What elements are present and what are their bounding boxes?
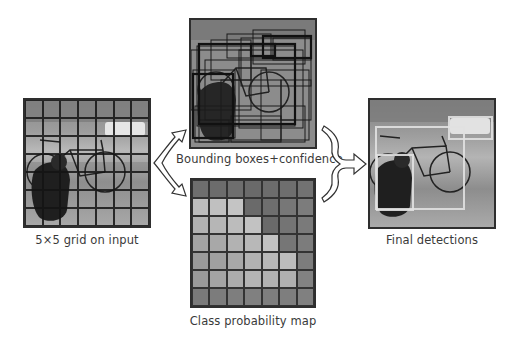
class-probability-cell [262, 180, 279, 198]
bounding-boxes-photo [191, 20, 315, 147]
class-probability-cell [297, 234, 314, 252]
class-probability-cell [209, 234, 226, 252]
class-probability-cell [279, 216, 296, 234]
class-probability-cell [227, 288, 244, 306]
class-probability-cell [279, 288, 296, 306]
merge-arrow-icon [320, 124, 368, 204]
class-probability-cell [297, 288, 314, 306]
class-probability-cell [192, 234, 209, 252]
class-probability-cell [297, 198, 314, 216]
class-probability-caption: Class probability map [183, 314, 323, 328]
class-probability-cell [279, 234, 296, 252]
class-probability-cell [279, 252, 296, 270]
class-probability-cell [279, 180, 296, 198]
class-probability-cell [262, 216, 279, 234]
class-probability-cell [279, 270, 296, 288]
bounding-boxes-panel [189, 18, 317, 149]
class-probability-cell [209, 180, 226, 198]
final-detections-caption: Final detections [368, 233, 496, 247]
final-detections-panel [368, 98, 496, 229]
class-probability-cell [209, 270, 226, 288]
class-probability-cell [209, 252, 226, 270]
class-probability-cell [244, 216, 261, 234]
class-probability-cell [227, 180, 244, 198]
class-probability-cell [279, 198, 296, 216]
class-probability-cell [262, 288, 279, 306]
class-probability-cell [244, 252, 261, 270]
class-probability-cell [227, 216, 244, 234]
input-caption: 5×5 grid on input [23, 233, 151, 247]
class-probability-cell [192, 252, 209, 270]
class-probability-cell [192, 180, 209, 198]
class-probability-cell [192, 216, 209, 234]
class-probability-grid [192, 180, 314, 306]
input-image-panel [23, 98, 151, 228]
detection-box-car [448, 116, 493, 140]
class-probability-cell [192, 270, 209, 288]
class-probability-map-panel [190, 178, 316, 308]
class-probability-cell [262, 234, 279, 252]
class-probability-cell [244, 198, 261, 216]
class-probability-cell [244, 180, 261, 198]
class-probability-cell [227, 270, 244, 288]
class-probability-cell [262, 270, 279, 288]
class-probability-cell [192, 198, 209, 216]
bounding-boxes-caption: Bounding boxes+confidence [176, 152, 331, 166]
class-probability-cell [262, 252, 279, 270]
class-probability-cell [227, 234, 244, 252]
class-probability-cell [209, 216, 226, 234]
class-probability-cell [244, 270, 261, 288]
input-grid-overlay [25, 100, 149, 226]
class-probability-cell [262, 198, 279, 216]
class-probability-cell [297, 180, 314, 198]
class-probability-cell [297, 270, 314, 288]
class-probability-cell [192, 288, 209, 306]
class-probability-cell [227, 252, 244, 270]
class-probability-cell [297, 252, 314, 270]
class-probability-cell [209, 198, 226, 216]
class-probability-cell [227, 198, 244, 216]
split-arrow-icon [150, 128, 194, 198]
class-probability-cell [209, 288, 226, 306]
class-probability-cell [244, 234, 261, 252]
class-probability-cell [297, 216, 314, 234]
class-probability-cell [244, 288, 261, 306]
